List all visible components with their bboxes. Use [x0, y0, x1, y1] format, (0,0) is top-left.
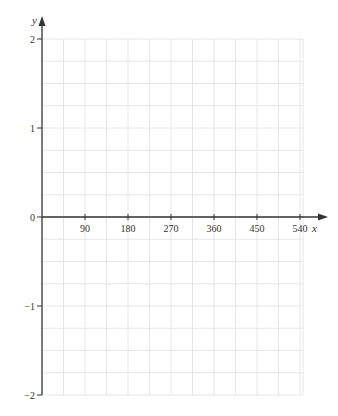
- x-tick-label: 180: [121, 223, 136, 234]
- y-tick-label: 0: [30, 212, 35, 223]
- y-tick-label: −2: [24, 390, 35, 401]
- x-tick-label: 540: [293, 223, 308, 234]
- x-axis-arrow-icon: [318, 214, 328, 221]
- x-tick-label: 360: [207, 223, 222, 234]
- y-axis-label: y: [31, 14, 37, 26]
- y-axis-arrow-icon: [39, 16, 46, 26]
- y-tick-label: 2: [30, 34, 35, 45]
- x-tick-label: 90: [80, 223, 90, 234]
- chart: 90180270360450540210−1−2 x y: [0, 0, 338, 416]
- x-axis-label: x: [311, 222, 317, 234]
- y-tick-label: 1: [30, 123, 35, 134]
- x-tick-label: 270: [164, 223, 179, 234]
- y-tick-label: −1: [24, 301, 35, 312]
- axes: [37, 16, 328, 395]
- x-tick-label: 450: [250, 223, 265, 234]
